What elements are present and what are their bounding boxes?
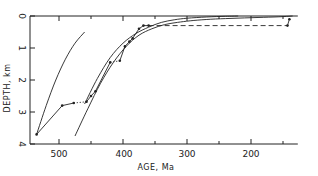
x-tick-label-400: 400 bbox=[115, 149, 132, 159]
y-tick-label-4: 4 bbox=[17, 141, 27, 147]
y-tick-labels: 0 1 2 3 4 bbox=[17, 13, 27, 147]
y-axis-title: DEPTH, km bbox=[3, 64, 12, 113]
y-tick-label-2: 2 bbox=[17, 77, 27, 83]
axes bbox=[30, 16, 298, 144]
data-point-marker bbox=[142, 24, 145, 27]
observed-segment-dotted bbox=[74, 102, 87, 103]
subsidence-curve-right bbox=[75, 16, 293, 136]
data-markers bbox=[35, 18, 290, 136]
observed-segment-solid bbox=[133, 29, 139, 39]
data-point-marker bbox=[61, 104, 64, 107]
observed-segment-solid bbox=[95, 62, 110, 91]
subsidence-curve-middle bbox=[85, 16, 239, 104]
data-point-marker bbox=[131, 37, 134, 40]
data-point-marker bbox=[288, 18, 291, 21]
depth-age-chart: 0 1 2 3 4 DEPTH, km 500 400 300 200 AGE,… bbox=[0, 0, 318, 176]
y-tick-label-0: 0 bbox=[17, 13, 27, 19]
subsidence-curve-left bbox=[37, 32, 85, 134]
observed-section bbox=[37, 19, 290, 134]
curves bbox=[37, 16, 293, 136]
data-point-marker bbox=[35, 133, 38, 136]
data-point-marker bbox=[94, 90, 97, 93]
observed-segment-dotted bbox=[110, 61, 120, 63]
data-point-marker bbox=[124, 45, 127, 48]
x-tick-label-500: 500 bbox=[50, 149, 67, 159]
data-point-marker bbox=[109, 61, 112, 64]
x-tick-label-300: 300 bbox=[178, 149, 195, 159]
y-tick-label-1: 1 bbox=[17, 45, 27, 51]
x-tick-labels: 500 400 300 200 bbox=[50, 149, 259, 159]
observed-segment-solid bbox=[37, 106, 63, 135]
data-point-marker bbox=[119, 60, 122, 63]
data-point-marker bbox=[85, 100, 88, 103]
data-point-marker bbox=[128, 40, 131, 43]
observed-segment-solid bbox=[62, 103, 74, 106]
data-point-marker bbox=[138, 28, 141, 31]
y-tick-label-3: 3 bbox=[17, 109, 27, 115]
x-tick-label-200: 200 bbox=[242, 149, 259, 159]
data-point-marker bbox=[147, 24, 150, 27]
data-point-marker bbox=[90, 95, 93, 98]
observed-segment-solid bbox=[120, 46, 125, 60]
data-point-marker bbox=[286, 24, 289, 27]
data-point-marker bbox=[72, 102, 75, 105]
x-axis-title: AGE, Ma bbox=[138, 163, 175, 172]
